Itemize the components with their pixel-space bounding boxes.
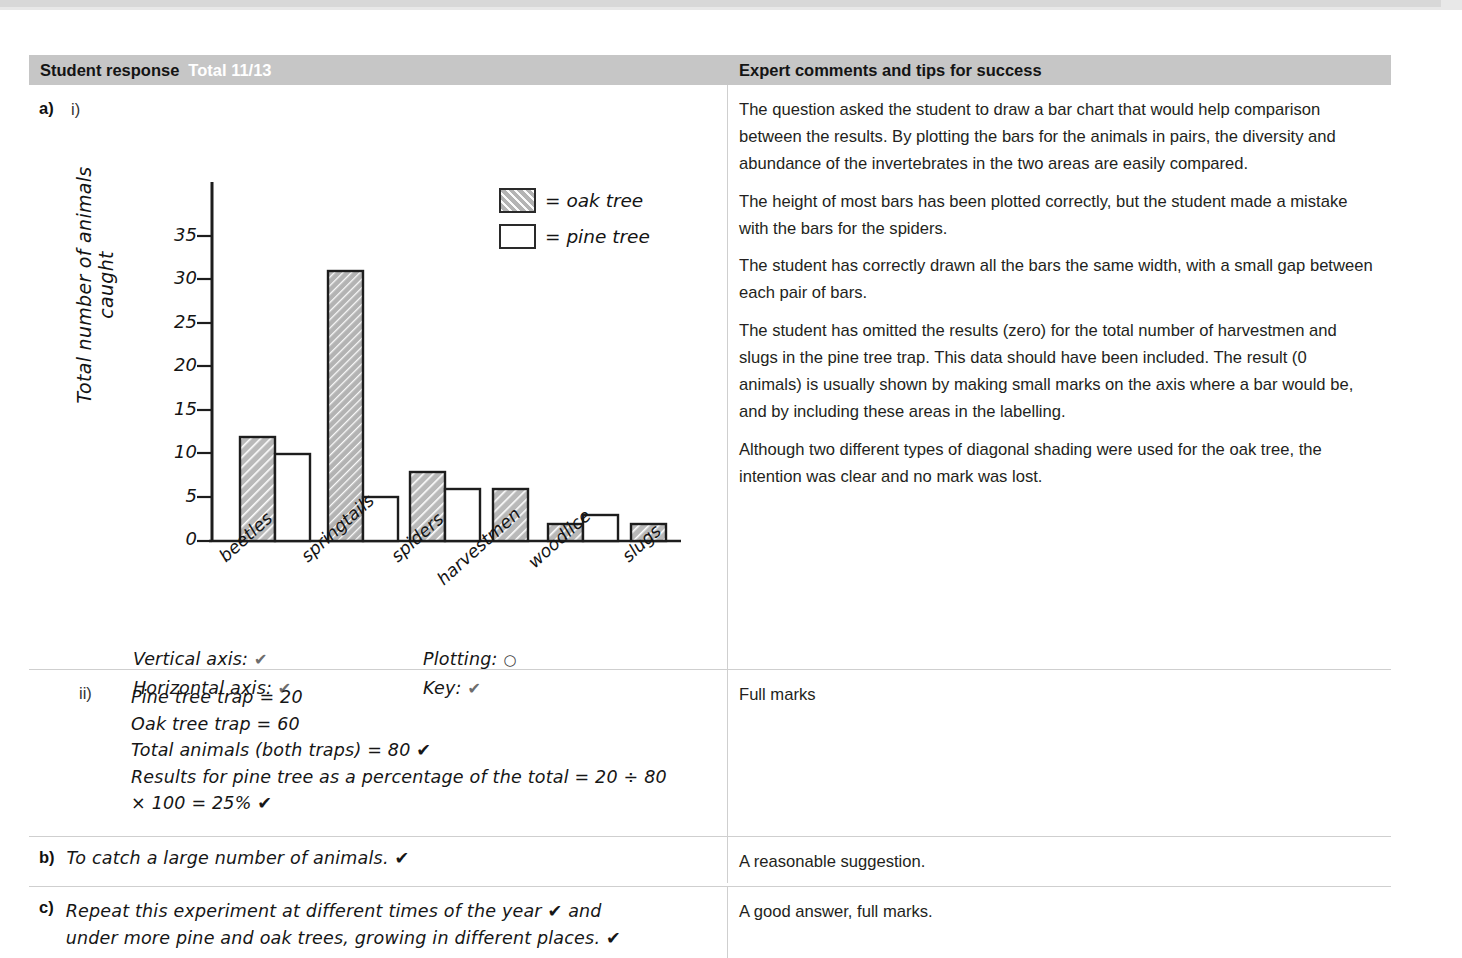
header-student-response-label: Student response bbox=[40, 61, 179, 80]
chart-y-tick-25: 25 bbox=[155, 311, 197, 332]
table-row-a: a) i) Total number of animals caught 35 … bbox=[29, 85, 1391, 670]
table-row-c: c) Repeat this experiment at different t… bbox=[29, 887, 1391, 958]
criteria-line-1: Vertical axis: ✔ Plotting: ○ bbox=[133, 649, 673, 669]
expert-comment-b: A reasonable suggestion. bbox=[739, 849, 1373, 876]
expert-comment-a-ii: Full marks bbox=[739, 682, 1373, 709]
chart-y-tick-20: 20 bbox=[155, 354, 197, 375]
legend-label-pine: = pine tree bbox=[545, 226, 650, 247]
table-row-a-ii: ii) Pine tree trap = 20 Oak tree trap = … bbox=[29, 670, 1391, 837]
chart-y-tick-35: 35 bbox=[155, 224, 197, 245]
chart-legend: = oak tree = pine tree bbox=[499, 188, 650, 260]
table-row-b: b) To catch a large number of animals. ✔… bbox=[29, 837, 1391, 887]
expert-comments-cell-a-ii: Full marks bbox=[728, 670, 1391, 836]
student-response-cell-c: c) Repeat this experiment at different t… bbox=[29, 887, 728, 958]
legend-item-oak: = oak tree bbox=[499, 188, 650, 213]
chart-y-axis-label: Total number of animals caught bbox=[73, 135, 117, 435]
page-root: Student response Total 11/13 Expert comm… bbox=[0, 0, 1462, 958]
working-line-5: × 100 = 25% ✔ bbox=[131, 790, 717, 817]
legend-item-pine: = pine tree bbox=[499, 224, 650, 249]
working-line-3: Total animals (both traps) = 80 ✔ bbox=[131, 737, 717, 764]
expert-comments-cell-a: The question asked the student to draw a… bbox=[728, 85, 1391, 669]
student-answer-b: To catch a large number of animals. ✔ bbox=[67, 848, 410, 877]
student-response-cell-a: a) i) Total number of animals caught 35 … bbox=[29, 85, 728, 669]
chart-y-tick-30: 30 bbox=[155, 267, 197, 288]
marking-table: Student response Total 11/13 Expert comm… bbox=[29, 55, 1391, 958]
expert-paragraph-4: The student has omitted the results (zer… bbox=[739, 318, 1373, 426]
expert-comments-cell-b: A reasonable suggestion. bbox=[728, 837, 1391, 886]
chart-svg bbox=[29, 85, 728, 669]
student-answer-c-line-1: Repeat this experiment at different time… bbox=[66, 898, 621, 925]
criterion-vertical-axis: Vertical axis: ✔ bbox=[133, 649, 423, 669]
legend-label-oak: = oak tree bbox=[545, 190, 643, 211]
chart-y-tick-5: 5 bbox=[155, 485, 197, 506]
table-header-row: Student response Total 11/13 Expert comm… bbox=[29, 55, 1391, 85]
question-label-b: b) bbox=[39, 848, 55, 877]
expert-paragraph-1: The question asked the student to draw a… bbox=[739, 97, 1373, 178]
question-label-a-ii: ii) bbox=[79, 684, 92, 703]
expert-comment-c: A good answer, full marks. bbox=[739, 899, 1373, 926]
expert-paragraph-3: The student has correctly drawn all the … bbox=[739, 253, 1373, 307]
criterion-vertical-axis-label: Vertical axis: bbox=[133, 649, 248, 669]
student-response-cell-a-ii: ii) Pine tree trap = 20 Oak tree trap = … bbox=[29, 670, 728, 836]
working-line-1: Pine tree trap = 20 bbox=[131, 684, 717, 711]
legend-swatch-pine-icon bbox=[499, 224, 536, 249]
header-total-score: Total 11/13 bbox=[188, 61, 271, 80]
student-answer-c: Repeat this experiment at different time… bbox=[66, 898, 621, 955]
expert-paragraph-5: Although two different types of diagonal… bbox=[739, 437, 1373, 491]
student-working-a-ii: Pine tree trap = 20 Oak tree trap = 60 T… bbox=[131, 684, 717, 817]
criterion-plotting: Plotting: ○ bbox=[423, 649, 673, 669]
student-answer-c-line-2: under more pine and oak trees, growing i… bbox=[66, 925, 621, 952]
header-student-response: Student response Total 11/13 bbox=[29, 55, 728, 85]
student-response-cell-b: b) To catch a large number of animals. ✔ bbox=[29, 837, 728, 883]
bar-chart: Total number of animals caught 35 30 25 … bbox=[29, 85, 728, 669]
chart-y-tick-0: 0 bbox=[155, 528, 197, 549]
chart-y-tick-15: 15 bbox=[155, 398, 197, 419]
header-expert-comments-label: Expert comments and tips for success bbox=[739, 61, 1042, 80]
criterion-plotting-label: Plotting: bbox=[423, 649, 498, 669]
working-line-2: Oak tree trap = 60 bbox=[131, 711, 717, 738]
expert-paragraph-2: The height of most bars has been plotted… bbox=[739, 189, 1373, 243]
expert-comments-cell-c: A good answer, full marks. bbox=[728, 887, 1391, 958]
criterion-plotting-mark-icon: ○ bbox=[503, 651, 516, 669]
working-line-4: Results for pine tree as a percentage of… bbox=[131, 764, 717, 791]
legend-swatch-oak-icon bbox=[499, 188, 536, 213]
criterion-vertical-axis-mark-icon: ✔ bbox=[254, 650, 268, 669]
page-top-band bbox=[0, 0, 1462, 10]
chart-y-tick-10: 10 bbox=[155, 441, 197, 462]
header-expert-comments: Expert comments and tips for success bbox=[728, 55, 1391, 85]
page-top-band-inner bbox=[0, 0, 1441, 7]
question-label-c: c) bbox=[39, 898, 54, 955]
